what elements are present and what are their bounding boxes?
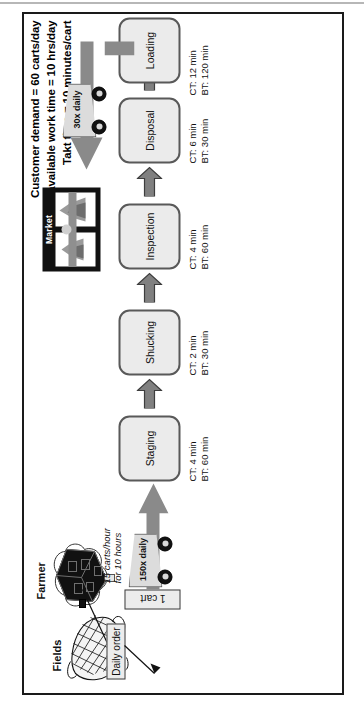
process-bt-inspection: BT: 60 min — [198, 224, 210, 269]
screenshot-root: Customer demand = 60 carts/day Total ava… — [0, 0, 364, 720]
process-name-loading: Loading — [143, 31, 155, 68]
process-box-disposal: Disposal — [118, 97, 180, 163]
process-ct-loading: CT: 12 min — [186, 45, 198, 95]
inbound-rate-line2: for 10 hours — [111, 528, 122, 583]
process-metrics-inspection: CT: 4 min BT: 60 min — [186, 224, 209, 269]
process-name-staging: Staging — [143, 430, 155, 466]
process-box-staging: Staging — [118, 415, 180, 481]
inventory-box: 1 cart — [124, 589, 180, 609]
process-name-disposal: Disposal — [143, 110, 155, 150]
order-arrow-icon — [80, 587, 110, 647]
process-ct-shucking: CT: 2 min — [186, 330, 198, 375]
market-building-icon: Market — [42, 187, 100, 271]
diagram-rotation-wrapper: Customer demand = 60 carts/day Total ava… — [22, 12, 344, 695]
process-bt-disposal: BT: 30 min — [198, 118, 210, 163]
truck-wheel-front-inbound — [157, 569, 172, 584]
process-bt-staging: BT: 60 min — [198, 436, 210, 481]
process-box-shucking: Shucking — [118, 309, 180, 375]
process-name-inspection: Inspection — [143, 212, 155, 260]
truck-wheel-front-outbound — [91, 119, 106, 134]
truck-icon-inbound: 150x daily — [128, 527, 174, 587]
inbound-rate-note: 15 carts/hour for 10 hours — [100, 528, 122, 583]
process-metrics-disposal: CT: 6 min BT: 30 min — [186, 118, 209, 163]
process-bt-loading: BT: 120 min — [198, 45, 210, 95]
process-metrics-loading: CT: 12 min BT: 120 min — [186, 45, 209, 95]
header-line-customer-demand: Customer demand = 60 carts/day — [28, 20, 40, 198]
top-rule — [0, 2, 364, 4]
process-ct-inspection: CT: 4 min — [186, 224, 198, 269]
market-lamp — [61, 224, 71, 234]
inbound-rate-line1: 15 carts/hour — [100, 528, 111, 583]
truck-wheel-rear-inbound — [157, 536, 172, 551]
process-metrics-staging: CT: 4 min BT: 60 min — [186, 436, 209, 481]
inbound-shipment-label: 150x daily — [137, 535, 147, 583]
inbound-shipment-arrowhead — [132, 481, 174, 513]
process-bt-shucking: BT: 30 min — [198, 330, 210, 375]
process-name-shucking: Shucking — [143, 320, 155, 363]
outbound-shipment-label: 30x daily — [71, 85, 81, 133]
caption-farmer: Farmer — [34, 562, 46, 599]
value-stream-map: Customer demand = 60 carts/day Total ava… — [22, 12, 344, 695]
process-metrics-shucking: CT: 2 min BT: 30 min — [186, 330, 209, 375]
inventory-box-label: 1 cart — [139, 593, 164, 604]
truck-icon-outbound: 30x daily — [62, 77, 108, 137]
order-arrow-to-fields-icon — [122, 639, 166, 685]
process-arrow-2 — [136, 272, 162, 302]
process-arrow-3 — [136, 166, 162, 196]
process-arrow-1 — [136, 378, 162, 408]
caption-fields: Fields — [50, 639, 62, 671]
market-label: Market — [43, 187, 53, 271]
outbound-shipment-arrowhead — [66, 135, 108, 171]
process-box-inspection: Inspection — [118, 203, 180, 269]
truck-wheel-rear-outbound — [91, 86, 106, 101]
outbound-riser — [104, 39, 134, 55]
process-ct-staging: CT: 4 min — [186, 436, 198, 481]
process-ct-disposal: CT: 6 min — [186, 118, 198, 163]
